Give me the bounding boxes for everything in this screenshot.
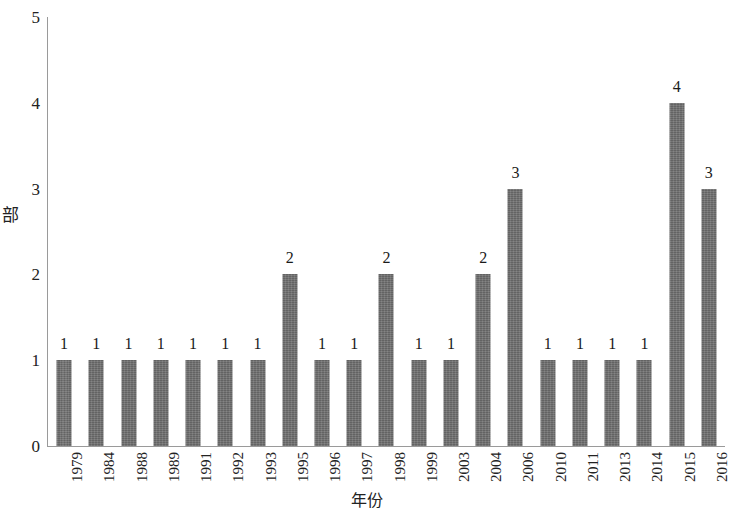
bar-value-label: 1	[447, 336, 455, 352]
x-axis-category-label: 2013	[618, 452, 633, 482]
bar[interactable]	[540, 360, 555, 446]
bar-value-label: 1	[92, 336, 100, 352]
x-axis-category-label: 1996	[328, 452, 343, 482]
bar-slot: 1	[628, 17, 660, 446]
bar[interactable]	[701, 189, 716, 446]
bar-slot: 3	[693, 17, 725, 446]
bar-value-label: 2	[382, 250, 390, 266]
plot-area: 111111121121123111143	[48, 17, 725, 446]
x-axis-category-label: 1993	[264, 452, 279, 482]
bar-value-label: 3	[511, 165, 519, 181]
bar[interactable]	[669, 103, 684, 446]
bar[interactable]	[379, 274, 394, 446]
bar-chart: 012345 部 111111121121123111143 197919841…	[0, 0, 733, 523]
bar-slot: 1	[403, 17, 435, 446]
bar[interactable]	[218, 360, 233, 446]
x-axis-category-label: 2016	[715, 452, 730, 482]
bar-slot: 1	[306, 17, 338, 446]
y-axis-tick-label: 5	[18, 9, 40, 26]
y-axis-tick-label: 0	[18, 438, 40, 455]
x-axis-category-label: 2010	[554, 452, 569, 482]
bar-slot: 1	[596, 17, 628, 446]
bar-slot: 1	[338, 17, 370, 446]
bar-slot: 2	[274, 17, 306, 446]
bar-value-label: 1	[608, 336, 616, 352]
bar-value-label: 1	[576, 336, 584, 352]
x-axis-category-label: 1988	[135, 452, 150, 482]
bar[interactable]	[605, 360, 620, 446]
x-axis-line	[47, 446, 725, 447]
y-axis-tick-label: 2	[18, 266, 40, 283]
x-axis-category-label: 2014	[650, 452, 665, 482]
x-axis-category-label: 2004	[489, 452, 504, 482]
y-axis-tick-label: 3	[18, 180, 40, 197]
bar-value-label: 1	[157, 336, 165, 352]
bar[interactable]	[508, 189, 523, 446]
bar-slot: 1	[80, 17, 112, 446]
bar-slot: 1	[532, 17, 564, 446]
x-axis-category-label: 1989	[167, 452, 182, 482]
x-axis-category-label: 1995	[296, 452, 311, 482]
x-axis-category-label: 1998	[393, 452, 408, 482]
bar-value-label: 1	[415, 336, 423, 352]
bar-slot: 2	[467, 17, 499, 446]
bar-slot: 1	[564, 17, 596, 446]
bar[interactable]	[637, 360, 652, 446]
bar[interactable]	[347, 360, 362, 446]
x-axis-category-label: 1979	[70, 452, 85, 482]
x-axis-category-label: 2011	[586, 452, 601, 481]
bar-value-label: 1	[60, 336, 68, 352]
y-axis-title: 部	[2, 206, 19, 225]
x-axis-category-label: 2003	[457, 452, 472, 482]
y-axis-tick-label: 4	[18, 94, 40, 111]
bar[interactable]	[250, 360, 265, 446]
bar-slot: 1	[112, 17, 144, 446]
x-axis-category-label: 1984	[102, 452, 117, 482]
bar[interactable]	[57, 360, 72, 446]
bar-slot: 2	[370, 17, 402, 446]
bar-value-label: 2	[479, 250, 487, 266]
x-axis-title: 年份	[0, 492, 733, 510]
bar-slot: 4	[661, 17, 693, 446]
x-axis-category-label: 1992	[231, 452, 246, 482]
y-axis-tick-label: 1	[18, 352, 40, 369]
bar-value-label: 1	[254, 336, 262, 352]
bar-slot: 1	[48, 17, 80, 446]
bar-value-label: 1	[544, 336, 552, 352]
bar-slot: 1	[177, 17, 209, 446]
bar-value-label: 1	[125, 336, 133, 352]
x-axis-category-label: 1991	[199, 452, 214, 482]
x-axis-category-label: 2015	[683, 452, 698, 482]
x-axis-category-label: 2006	[521, 452, 536, 482]
bar-value-label: 1	[318, 336, 326, 352]
bar-slot: 3	[499, 17, 531, 446]
bar[interactable]	[315, 360, 330, 446]
bar-value-label: 1	[221, 336, 229, 352]
bar-value-label: 3	[705, 165, 713, 181]
x-axis-category-label: 1999	[425, 452, 440, 482]
bar[interactable]	[121, 360, 136, 446]
bar-slot: 1	[209, 17, 241, 446]
bar[interactable]	[411, 360, 426, 446]
bar-value-label: 1	[640, 336, 648, 352]
bar-slot: 1	[145, 17, 177, 446]
bar-value-label: 1	[189, 336, 197, 352]
bar[interactable]	[443, 360, 458, 446]
bar-value-label: 2	[286, 250, 294, 266]
bar-slot: 1	[241, 17, 273, 446]
bar[interactable]	[89, 360, 104, 446]
bar[interactable]	[282, 274, 297, 446]
bar-value-label: 1	[350, 336, 358, 352]
bar-value-label: 4	[673, 79, 681, 95]
x-axis-category-label: 1997	[360, 452, 375, 482]
bar[interactable]	[186, 360, 201, 446]
bar[interactable]	[476, 274, 491, 446]
bar[interactable]	[572, 360, 587, 446]
bar-slot: 1	[435, 17, 467, 446]
bar[interactable]	[153, 360, 168, 446]
